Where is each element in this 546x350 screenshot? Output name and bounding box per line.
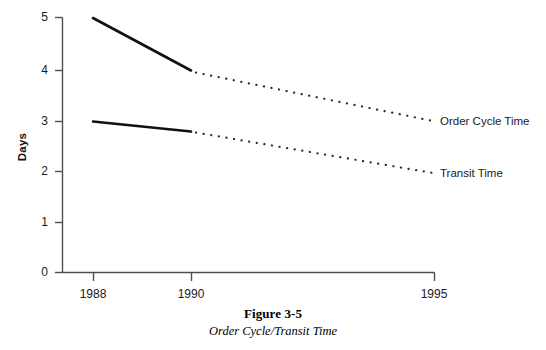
y-axis-title: Days: [0, 135, 57, 159]
y-tick-label-5: 5: [26, 11, 48, 23]
order-cycle-solid-segment: [93, 18, 191, 71]
order-cycle-dotted-segment: [196, 73, 433, 122]
x-tick-label-1995: 1995: [404, 288, 464, 300]
y-tick-label-1: 1: [26, 216, 48, 228]
transit-dotted-segment: [196, 133, 433, 174]
series-label-transit-time: Transit Time: [440, 167, 503, 179]
figure-caption-title: Figure 3-5: [0, 306, 546, 322]
transit-solid-segment: [93, 122, 191, 132]
series-label-order-cycle-time: Order Cycle Time: [440, 115, 529, 127]
y-tick-label-3: 3: [26, 115, 48, 127]
x-tick-label-1990: 1990: [161, 288, 221, 300]
figure-caption-subtitle: Order Cycle/Transit Time: [0, 323, 546, 339]
y-tick-label-0: 0: [26, 266, 48, 278]
y-tick-label-2: 2: [26, 165, 48, 177]
figure-container: Days 5 4 3 2 1 0 1988 1990 1995 Order Cy…: [0, 0, 546, 350]
y-tick-label-4: 4: [26, 64, 48, 76]
figure-caption: Figure 3-5 Order Cycle/Transit Time: [0, 306, 546, 339]
x-tick-label-1988: 1988: [63, 288, 123, 300]
x-axis-ticks: [94, 273, 435, 282]
